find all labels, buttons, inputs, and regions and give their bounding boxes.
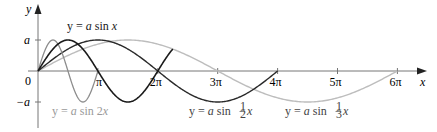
- y-axis-label: y: [25, 2, 32, 16]
- x-tick-label-6pi: 6π: [389, 75, 401, 89]
- label-sin-half-var: x: [246, 104, 253, 118]
- label-sin-half-x: y = a sin: [189, 104, 231, 118]
- x-tick-label-1pi: π: [96, 75, 102, 89]
- label-sin-third-x: y = a sin: [285, 104, 327, 118]
- x-tick-label-2pi: 2π: [150, 75, 162, 89]
- label-sin-third-den: 3: [336, 107, 342, 121]
- origin-label: 0: [25, 74, 31, 88]
- x-axis-label: x: [419, 75, 426, 89]
- y-tick-label-a: a: [24, 33, 30, 47]
- y-tick-label-neg-a: −a: [16, 95, 30, 109]
- label-sin-third-var: x: [342, 104, 349, 118]
- x-tick-label-3pi: 3π: [210, 75, 222, 89]
- label-sin-2x: y = a sin 2x: [52, 104, 109, 118]
- y-axis-arrow-icon: [35, 4, 42, 14]
- label-sin-half-den: 2: [240, 107, 246, 121]
- label-sin-x: y = a sin x: [67, 19, 118, 33]
- x-tick-label-5pi: 5π: [330, 75, 342, 89]
- x-axis-arrow-icon: [417, 68, 427, 75]
- x-tick-label-4pi: 4π: [270, 75, 282, 89]
- sine-curves-chart: y x 0 a −a π2π3π4π5π6π y = a sin x y = a…: [0, 0, 437, 132]
